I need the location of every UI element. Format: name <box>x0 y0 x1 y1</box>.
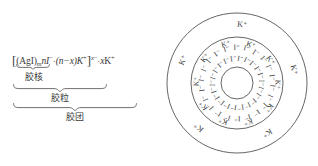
formula-panel: [(AgI)mnI−·(n−x)K+]x−·xK+ 胶核 胶粒 胶团 <box>0 0 155 166</box>
inner-ion-label: I⁻ <box>234 43 241 52</box>
micelle-figure: [(AgI)mnI−·(n−x)K+]x−·xK+ 胶核 胶粒 胶团 I⁻I⁻I… <box>0 0 318 166</box>
middle-ion-label: K⁺ <box>192 77 201 87</box>
inner-ion-label: I⁻ <box>264 93 275 103</box>
formula-counter-ion-group: (n−x)K <box>56 56 83 66</box>
inner-ion-label: I⁻ <box>251 107 261 118</box>
inner-ion-ring: I⁻I⁻I⁻I⁻I⁻I⁻I⁻I⁻I⁻I⁻I⁻I⁻I⁻I⁻I⁻I⁻I⁻I⁻I⁻I⁻… <box>197 43 278 124</box>
micelle-diagram-svg: I⁻I⁻I⁻I⁻I⁻I⁻I⁻I⁻I⁻I⁻I⁻I⁻I⁻I⁻I⁻I⁻I⁻I⁻I⁻I⁻… <box>155 0 318 166</box>
inner-ion-label: I⁻ <box>199 64 210 74</box>
micelle-diagram-panel: I⁻I⁻I⁻I⁻I⁻I⁻I⁻I⁻I⁻I⁻I⁻I⁻I⁻I⁻I⁻I⁻I⁻I⁻I⁻I⁻… <box>155 0 318 166</box>
middle-ion-label: K⁺ <box>273 80 282 90</box>
middle-ion-label: K⁺ <box>242 117 254 128</box>
outer-ion-label: K⁺ <box>192 121 205 134</box>
brace-label-micelle: 胶团 <box>55 110 95 123</box>
inner-ion-label: I⁻ <box>212 47 222 58</box>
outer-ion-label: K⁺ <box>289 64 300 76</box>
brace-label-nucleus: 胶核 <box>14 70 54 83</box>
formula-diffuse-ion-charge: + <box>111 54 115 61</box>
middle-ion-label: K⁺ <box>220 38 232 49</box>
core-circle <box>221 67 253 99</box>
diffuse-layer-circle <box>167 13 307 153</box>
outer-ion-label: K⁺ <box>177 54 189 67</box>
outer-ion-label: K⁺ <box>237 20 248 30</box>
outer-ion-label: K⁺ <box>261 127 274 140</box>
inner-ion-label: I⁻ <box>234 114 241 123</box>
inner-ion-label: I⁻ <box>230 54 238 64</box>
